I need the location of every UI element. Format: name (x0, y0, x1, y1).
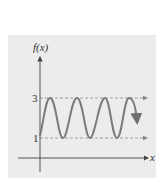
tick-label-3: 3 (32, 92, 38, 104)
chart-svg: f(x) x 3 1 (0, 0, 166, 185)
x-axis-label: x (149, 151, 155, 163)
y-axis-label: f(x) (33, 41, 49, 54)
tick-label-1: 1 (33, 132, 39, 144)
function-curve (40, 98, 137, 138)
